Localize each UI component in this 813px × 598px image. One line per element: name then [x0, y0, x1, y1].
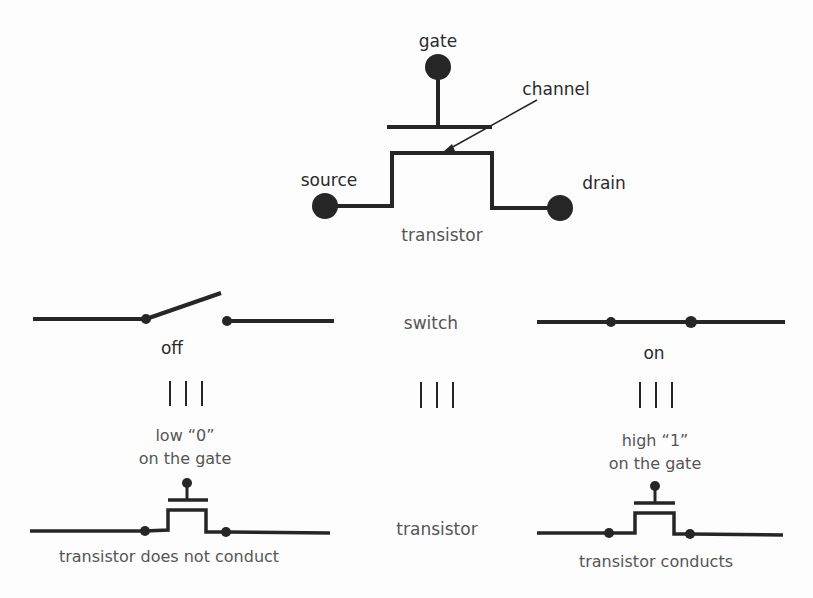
low-gate-line1: low “0”	[155, 426, 214, 445]
equivalence-symbol-right	[640, 382, 672, 408]
on-label: on	[643, 343, 664, 363]
closed-switch	[537, 316, 785, 328]
transistor-center-label: transistor	[396, 519, 477, 539]
off-transistor-symbol	[30, 478, 330, 537]
channel-label: channel	[522, 79, 589, 99]
on-transistor-symbol	[537, 481, 783, 539]
source-terminal	[312, 193, 338, 219]
transistor-switch-diagram: gate channel source drain transistor off…	[0, 0, 813, 598]
open-switch	[33, 293, 334, 326]
high-gate-line2: on the gate	[609, 454, 701, 473]
arrowhead-icon	[443, 144, 455, 152]
channel-path	[325, 153, 560, 208]
high-gate-line1: high “1”	[622, 431, 689, 450]
drain-terminal	[547, 195, 573, 221]
off-label: off	[161, 338, 184, 358]
low-gate-line2: on the gate	[139, 449, 231, 468]
drain-label: drain	[582, 173, 626, 193]
switch-label: switch	[404, 313, 458, 333]
transistor-caption: transistor	[401, 225, 482, 245]
gate-label: gate	[419, 31, 457, 51]
channel-arrow	[449, 100, 537, 149]
does-not-conduct-caption: transistor does not conduct	[59, 547, 279, 566]
conducts-caption: transistor conducts	[579, 552, 733, 571]
equivalence-symbol-left	[170, 381, 202, 406]
source-label: source	[301, 170, 357, 190]
equivalence-symbol-center	[421, 382, 453, 408]
